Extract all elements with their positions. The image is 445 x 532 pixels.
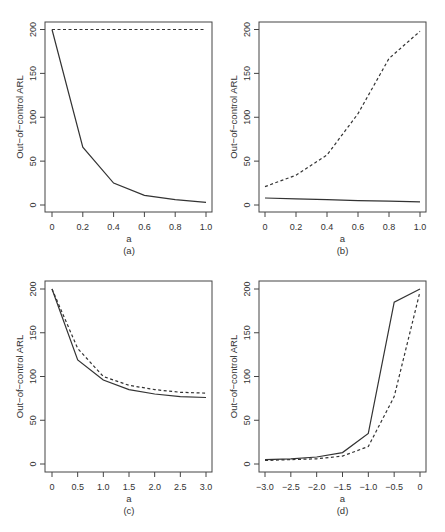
chart-svg-d: −3.0−2.5−2.0−1.5−1.0−0.50050100150200Out… [0,0,445,532]
x-tick-label: −0.5 [385,482,403,492]
solid-series-line [265,289,420,460]
x-axis-title: a [340,493,346,504]
y-tick-label: 100 [242,369,252,384]
x-tick-label: 0 [417,482,422,492]
y-tick-label: 50 [242,415,252,425]
dashed-series-line [265,292,420,461]
y-tick-label: 0 [242,461,252,466]
x-tick-label: −1.5 [334,482,352,492]
plot-frame [259,281,426,472]
x-tick-label: −2.5 [282,482,300,492]
panel-caption: (d) [337,505,349,516]
chart-panel-d: −3.0−2.5−2.0−1.5−1.0−0.50050100150200Out… [0,0,445,532]
x-tick-label: −1.0 [359,482,377,492]
y-axis-title: Out−of−control ARL [228,335,239,418]
y-tick-label: 200 [242,281,252,296]
x-tick-label: −3.0 [256,482,274,492]
x-tick-label: −2.0 [308,482,326,492]
y-tick-label: 150 [242,325,252,340]
